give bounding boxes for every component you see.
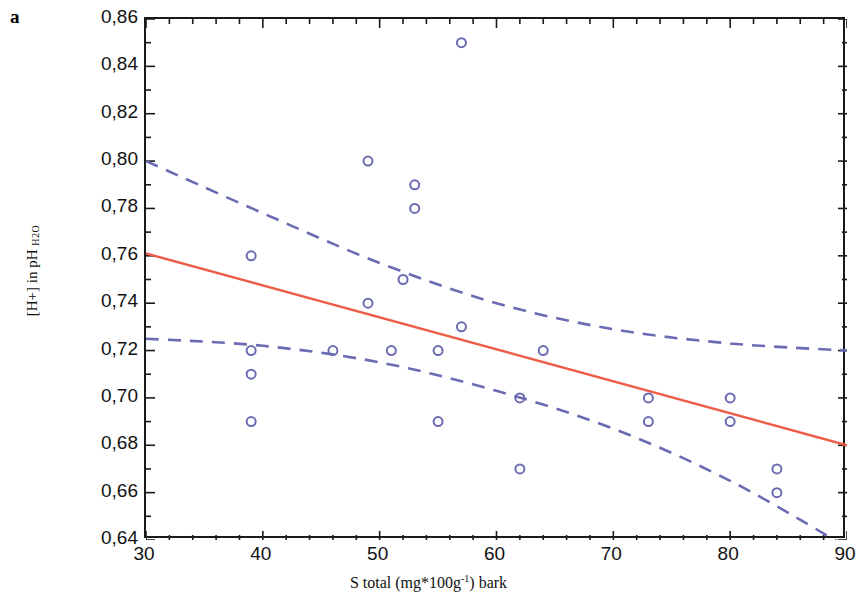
- data-point: [247, 370, 256, 379]
- x-axis-tick-label: 40: [250, 543, 271, 565]
- data-point: [726, 417, 735, 426]
- x-axis-tick-label: 50: [367, 543, 388, 565]
- x-axis-tick-label: 80: [718, 543, 739, 565]
- data-point: [399, 275, 408, 284]
- y-axis-tick-label: 0,80: [101, 148, 138, 170]
- data-point: [644, 393, 653, 402]
- data-point: [457, 38, 466, 47]
- y-axis-title-subscript: H2O: [30, 225, 41, 246]
- y-axis-tick-label: 0,68: [101, 432, 138, 454]
- data-point: [410, 180, 419, 189]
- data-point: [247, 346, 256, 355]
- x-axis-tick-label: 30: [133, 543, 154, 565]
- data-point: [363, 157, 372, 166]
- y-axis-tick-labels: 0,640,660,680,700,720,740,760,780,800,82…: [0, 0, 138, 607]
- y-axis-tick-label: 0,84: [101, 53, 138, 75]
- y-axis-tick-label: 0,76: [101, 243, 138, 265]
- y-axis-tick-label: 0,66: [101, 480, 138, 502]
- y-axis-title: [H+] in pH H2O: [24, 151, 41, 391]
- figure-panel: a 0,640,660,680,700,720,740,760,780,800,…: [0, 0, 857, 607]
- data-point: [515, 464, 524, 473]
- data-point: [247, 417, 256, 426]
- x-axis-tick-label: 90: [834, 543, 855, 565]
- y-axis-tick-label: 0,82: [101, 101, 138, 123]
- y-axis-tick-label: 0,70: [101, 385, 138, 407]
- data-point: [434, 346, 443, 355]
- upper-confidence-band: [146, 161, 847, 350]
- x-axis-tick-label: 70: [601, 543, 622, 565]
- x-axis-title-superscript: -1: [461, 573, 469, 584]
- data-point: [363, 299, 372, 308]
- data-point: [772, 464, 781, 473]
- data-point: [410, 204, 419, 213]
- y-axis-tick-label: 0,72: [101, 338, 138, 360]
- x-axis-title: S total (mg*100g-1) bark: [0, 573, 857, 592]
- y-axis-tick-label: 0,86: [101, 6, 138, 28]
- data-point: [247, 251, 256, 260]
- data-point: [772, 488, 781, 497]
- data-point: [434, 417, 443, 426]
- plot-canvas: [146, 19, 847, 540]
- data-point: [644, 417, 653, 426]
- data-point: [387, 346, 396, 355]
- plot-area: [144, 17, 845, 538]
- data-point: [726, 393, 735, 402]
- x-axis-tick-label: 60: [484, 543, 505, 565]
- y-axis-tick-label: 0,78: [101, 195, 138, 217]
- y-axis-tick-label: 0,74: [101, 290, 138, 312]
- data-point: [457, 322, 466, 331]
- data-point: [539, 346, 548, 355]
